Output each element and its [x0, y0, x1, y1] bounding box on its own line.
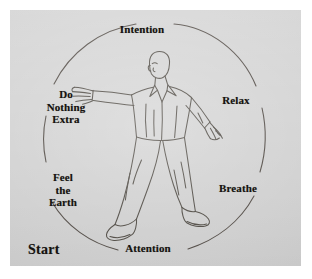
label-feel-the-earth: Feel the Earth [36, 171, 90, 209]
figure-torso [132, 87, 192, 141]
diagram-panel: Intention Relax Breathe Attention Feel t… [10, 10, 301, 266]
label-do-line-2: Nothing [30, 101, 102, 114]
figure-legs [106, 138, 209, 241]
label-relax: Relax [206, 95, 266, 107]
practice-circle-illustration [10, 10, 301, 266]
label-intention: Intention [102, 24, 182, 36]
label-attention: Attention [108, 243, 188, 255]
label-do-line-3: Extra [30, 113, 102, 126]
label-feel-line-3: Earth [36, 196, 90, 209]
practice-circle-ring [44, 24, 265, 250]
standing-figure [72, 52, 222, 241]
label-feel-line-1: Feel [36, 171, 90, 184]
label-start: Start [28, 242, 88, 257]
figure-head [148, 52, 169, 86]
label-do-line-1: Do [30, 88, 102, 101]
label-breathe: Breathe [202, 183, 274, 195]
label-feel-line-2: the [36, 184, 90, 197]
label-do-nothing-extra: Do Nothing Extra [30, 88, 102, 126]
